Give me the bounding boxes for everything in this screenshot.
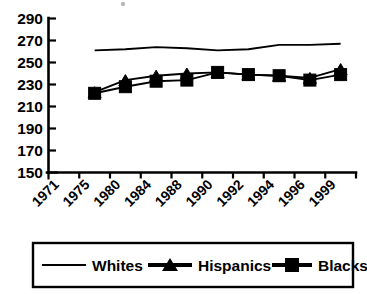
data-point-marker-blacks <box>89 87 101 99</box>
legend-label-hispanics: Hispanics <box>198 257 271 274</box>
data-point-marker-blacks <box>181 74 193 86</box>
data-point-marker-blacks <box>119 81 131 93</box>
data-point-marker-blacks <box>273 70 285 82</box>
y-axis-tick-label: 170 <box>17 142 43 159</box>
x-axis-tick-label: 1980 <box>90 176 123 209</box>
legend-label-blacks: Blacks <box>318 257 367 274</box>
y-axis-tick-label: 150 <box>17 164 43 181</box>
chart-canvas: 290270250230210190170150 197119751980198… <box>0 0 367 294</box>
series-markers-group <box>88 64 347 100</box>
x-axis-tick-label: 1992 <box>213 176 246 209</box>
x-axis-tick-label: 1984 <box>121 176 154 209</box>
y-axis-tick-labels: 290270250230210190170150 <box>17 10 43 181</box>
y-axis-tick-label: 190 <box>17 120 43 137</box>
y-axis-tick-label: 270 <box>17 32 43 49</box>
data-point-marker-blacks <box>212 66 224 78</box>
x-axis-tick-label: 1996 <box>275 176 308 209</box>
x-axis-tick-label: 1990 <box>182 176 215 209</box>
series-line-whites <box>95 44 341 51</box>
y-axis-tick-label: 290 <box>17 10 43 27</box>
chart-figure: 290270250230210190170150 197119751980198… <box>0 0 367 294</box>
x-axis-tick-label: 1999 <box>305 176 338 209</box>
data-point-marker-blacks <box>304 74 316 86</box>
x-axis-tick-label: 1988 <box>152 176 185 209</box>
legend-label-whites: Whites <box>92 257 143 274</box>
x-axis-tick-label: 1975 <box>59 176 92 209</box>
legend-marker-square <box>285 258 299 272</box>
x-axis-tick-label: 1994 <box>244 176 277 209</box>
x-axis-tick-labels: 1971197519801984198819901992199419961999 <box>29 176 339 209</box>
scan-speck <box>121 2 125 6</box>
x-axis-tick-label: 1971 <box>29 176 62 209</box>
y-axis-tick-marks <box>49 19 59 173</box>
y-axis-tick-label: 250 <box>17 54 43 71</box>
data-point-marker-blacks <box>335 69 347 81</box>
data-point-marker-blacks <box>242 69 254 81</box>
y-axis-tick-label: 210 <box>17 98 43 115</box>
y-axis-tick-label: 230 <box>17 76 43 93</box>
data-point-marker-blacks <box>150 75 162 87</box>
